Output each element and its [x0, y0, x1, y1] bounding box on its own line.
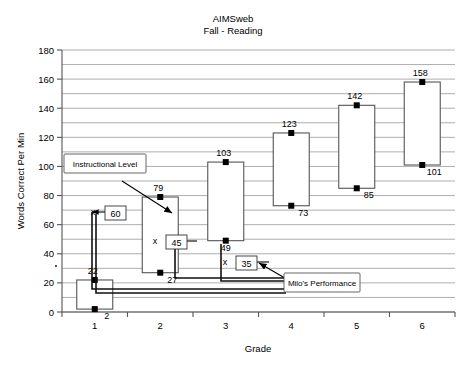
box-grade-5[interactable]: 14285: [339, 91, 375, 200]
x-tick-label-2: 2: [158, 320, 163, 331]
x-axis-ticks: 123456: [62, 312, 455, 331]
x-mark-45: x: [153, 236, 158, 246]
value-box-35-text: 35: [241, 259, 251, 269]
label-bottom-grade-4: 73: [298, 208, 308, 218]
label-bottom-grade-6: 101: [427, 167, 442, 177]
student-value-35[interactable]: x 35: [223, 256, 257, 270]
x-mark-35: x: [223, 257, 228, 267]
label-top-grade-6: 158: [413, 68, 428, 78]
box-rect-grade-5: [339, 105, 375, 188]
milos-performance-label: Milo's Performance: [288, 279, 357, 288]
y-axis-title: Words Correct Per Min: [15, 133, 26, 229]
marker-bottom-grade-4: [288, 203, 294, 209]
box-grade-6[interactable]: 158101: [404, 68, 442, 177]
value-box-60-text: 60: [110, 209, 120, 219]
label-top-grade-3: 103: [216, 148, 231, 158]
chart-title: AIMSweb: [213, 13, 254, 24]
x-tick-label-6: 6: [420, 320, 425, 331]
x-mark-60: x: [91, 207, 96, 217]
x-tick-label-1: 1: [92, 320, 97, 331]
y-tick-label-140: 140: [38, 103, 54, 114]
milo-connector-lines: [92, 212, 286, 293]
marker-bottom-grade-1: [92, 306, 98, 312]
y-tick-label-120: 120: [38, 132, 54, 143]
chart-svg: AIMSweb Fall - Reading 02040608010012014…: [0, 0, 467, 367]
label-top-grade-2: 79: [153, 183, 163, 193]
box-grade-2[interactable]: 7927: [142, 183, 178, 285]
x-tick-label-4: 4: [289, 320, 294, 331]
x-axis-title: Grade: [245, 343, 271, 354]
stray-dot-artifact: [55, 265, 57, 267]
value-box-45-text: 45: [171, 238, 181, 248]
y-tick-label-0: 0: [49, 307, 54, 318]
y-tick-label-100: 100: [38, 161, 54, 172]
box-rect-grade-1: [77, 280, 113, 309]
y-tick-label-80: 80: [43, 190, 54, 201]
box-grade-4[interactable]: 12373: [273, 119, 309, 218]
aimsweb-reading-chart: AIMSweb Fall - Reading 02040608010012014…: [0, 0, 467, 367]
gridlines: [62, 50, 455, 312]
label-bottom-grade-1: 2: [104, 311, 109, 321]
marker-bottom-grade-6: [419, 162, 425, 168]
marker-top-grade-2: [157, 194, 163, 200]
marker-top-grade-4: [288, 130, 294, 136]
box-rect-grade-3: [208, 162, 244, 241]
y-tick-label-20: 20: [43, 277, 54, 288]
marker-top-grade-5: [354, 102, 360, 108]
box-rect-grade-4: [273, 133, 309, 206]
x-tick-label-3: 3: [223, 320, 228, 331]
chart-subtitle: Fall - Reading: [203, 25, 262, 36]
marker-bottom-grade-5: [354, 185, 360, 191]
y-tick-label-40: 40: [43, 248, 54, 259]
marker-top-grade-3: [223, 159, 229, 165]
box-grade-3[interactable]: 10349: [208, 148, 244, 253]
y-tick-label-180: 180: [38, 45, 54, 56]
label-top-grade-4: 123: [282, 119, 297, 129]
y-tick-label-160: 160: [38, 74, 54, 85]
marker-bottom-grade-2: [157, 270, 163, 276]
label-bottom-grade-3: 49: [221, 243, 231, 253]
label-bottom-grade-5: 85: [364, 190, 374, 200]
marker-top-grade-6: [419, 79, 425, 85]
instructional-level-label: Instructional Level: [73, 160, 138, 169]
y-axis-ticks: 020406080100120140160180: [38, 45, 62, 318]
y-tick-label-60: 60: [43, 219, 54, 230]
x-tick-label-5: 5: [354, 320, 359, 331]
label-top-grade-5: 142: [347, 91, 362, 101]
box-rect-grade-6: [404, 82, 440, 165]
